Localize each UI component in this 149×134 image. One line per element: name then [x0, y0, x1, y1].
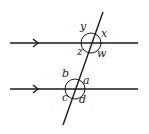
angle-label-x: x	[101, 27, 108, 40]
angle-label-d: d	[79, 93, 86, 106]
angle-label-a: a	[83, 74, 90, 87]
angle-label-y: y	[79, 20, 87, 33]
angle-label-z: z	[76, 45, 83, 58]
angle-label-w: w	[97, 47, 107, 60]
angle-label-c: c	[62, 91, 68, 104]
angle-label-b: b	[62, 67, 69, 80]
parallel-lines-diagram: y x z w b a c d	[0, 0, 149, 134]
